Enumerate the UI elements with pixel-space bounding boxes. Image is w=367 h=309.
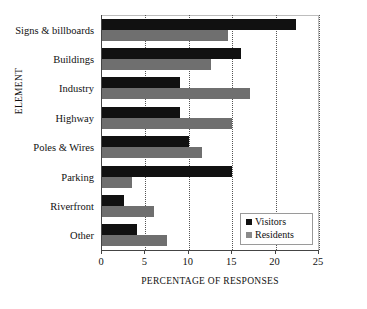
legend-label-visitors: Visitors [255,217,286,227]
x-tick-label-20: 20 [269,256,280,267]
gridline-25 [319,15,320,250]
x-tick-label-5: 5 [142,256,147,267]
x-tick-label-25: 25 [313,256,324,267]
bar-visitors-0 [102,19,296,30]
x-tick-mark-0 [101,251,102,254]
y-axis-category-labels: Signs & billboardsBuildingsIndustryHighw… [0,15,98,250]
x-tick-mark-20 [275,251,276,254]
bar-visitors-6 [102,195,124,206]
bar-chart: ELEMENT Signs & billboardsBuildingsIndus… [0,0,367,309]
y-label-3: Highway [0,112,94,123]
x-tick-label-15: 15 [226,256,237,267]
legend-item-residents: Residents [246,230,308,240]
gray-square-icon [246,232,252,238]
bar-residents-7 [102,235,167,246]
x-tick-mark-10 [188,251,189,254]
bar-residents-2 [102,88,250,99]
y-label-6: Riverfront [0,200,94,211]
bar-visitors-3 [102,107,180,118]
bar-residents-4 [102,147,202,158]
legend: VisitorsResidents [240,213,313,245]
bar-residents-1 [102,59,211,70]
bar-residents-6 [102,206,154,217]
x-tick-mark-25 [318,251,319,254]
y-label-4: Poles & Wires [0,142,94,153]
y-label-7: Other [0,230,94,241]
bar-visitors-2 [102,77,180,88]
black-square-icon [246,219,252,225]
y-label-5: Parking [0,171,94,182]
bar-residents-0 [102,30,228,41]
y-label-0: Signs & billboards [0,24,94,35]
x-tick-mark-5 [144,251,145,254]
bar-visitors-5 [102,166,232,177]
bar-visitors-4 [102,136,189,147]
x-tick-label-10: 10 [183,256,194,267]
x-tick-mark-15 [231,251,232,254]
legend-item-visitors: Visitors [246,217,308,227]
x-axis-title: PERCENTAGE OF RESPONSES [101,276,319,286]
x-tick-label-0: 0 [98,256,103,267]
y-label-1: Buildings [0,54,94,65]
bar-visitors-1 [102,48,241,59]
bar-residents-3 [102,118,232,129]
bar-visitors-7 [102,224,137,235]
bar-residents-5 [102,177,132,188]
y-label-2: Industry [0,83,94,94]
legend-label-residents: Residents [255,230,294,240]
